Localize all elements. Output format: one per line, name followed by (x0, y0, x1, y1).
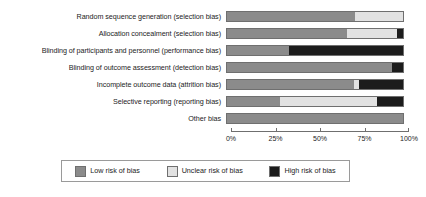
bar-row: Other bias (0, 110, 426, 127)
legend-swatch-icon (269, 166, 280, 177)
bar-segment-low (227, 114, 403, 123)
stacked-bar (226, 62, 404, 73)
x-axis-tick (320, 128, 321, 132)
legend-swatch-icon (75, 166, 86, 177)
bar-row-label: Incomplete outcome data (attrition bias) (0, 81, 226, 89)
bar-row-label: Other bias (0, 115, 226, 123)
bar-segment-low (227, 46, 289, 55)
bar-segment-unclear (280, 97, 377, 106)
x-axis-tick-label: 25% (268, 135, 282, 143)
x-axis-tick (408, 128, 409, 132)
legend-label: High risk of bias (284, 167, 335, 175)
x-axis-tick (276, 128, 277, 132)
x-axis: 0%25%50%75%100% (231, 131, 409, 151)
bar-row-label: Blinding of participants and personnel (… (0, 47, 226, 55)
legend-label: Unclear risk of bias (182, 167, 243, 175)
bar-row: Blinding of participants and personnel (… (0, 42, 426, 59)
bar-segment-unclear (355, 12, 403, 21)
stacked-bar (226, 96, 404, 107)
bar-rows: Random sequence generation (selection bi… (0, 8, 426, 127)
bar-row: Incomplete outcome data (attrition bias) (0, 76, 426, 93)
bar-segment-high (289, 46, 403, 55)
bar-segment-low (227, 63, 392, 72)
bar-segment-unclear (347, 29, 397, 38)
x-axis-tick-label: 50% (313, 135, 327, 143)
bar-segment-low (227, 80, 354, 89)
stacked-bar (226, 113, 404, 124)
stacked-bar (226, 45, 404, 56)
bar-row-label: Random sequence generation (selection bi… (0, 13, 226, 21)
bar-row: Allocation concealment (selection bias) (0, 25, 426, 42)
x-axis-tick-label: 75% (357, 135, 371, 143)
bar-segment-high (359, 80, 403, 89)
chart-legend: Low risk of biasUnclear risk of biasHigh… (61, 160, 350, 182)
bar-segment-low (227, 29, 347, 38)
bar-row: Selective reporting (reporting bias) (0, 93, 426, 110)
legend-item: Unclear risk of bias (167, 166, 243, 177)
risk-of-bias-graph: Random sequence generation (selection bi… (0, 0, 426, 197)
bar-row-label: Selective reporting (reporting bias) (0, 98, 226, 106)
bar-row-label: Allocation concealment (selection bias) (0, 30, 226, 38)
legend-item: High risk of bias (269, 166, 335, 177)
legend-swatch-icon (167, 166, 178, 177)
legend-label: Low risk of bias (90, 167, 140, 175)
x-axis-tick-label: 100% (400, 135, 418, 143)
bar-segment-high (392, 63, 403, 72)
bar-row-label: Blinding of outcome assessment (detectio… (0, 64, 226, 72)
bar-segment-high (377, 97, 403, 106)
bar-segment-low (227, 97, 280, 106)
stacked-bar (226, 11, 404, 22)
bar-segment-low (227, 12, 355, 21)
bar-row: Random sequence generation (selection bi… (0, 8, 426, 25)
x-axis-tick-label: 0% (226, 135, 236, 143)
legend-item: Low risk of bias (75, 166, 140, 177)
stacked-bar (226, 79, 404, 90)
x-axis-tick (365, 128, 366, 132)
bar-segment-high (397, 29, 403, 38)
bar-row: Blinding of outcome assessment (detectio… (0, 59, 426, 76)
stacked-bar (226, 28, 404, 39)
x-axis-tick (231, 128, 232, 132)
